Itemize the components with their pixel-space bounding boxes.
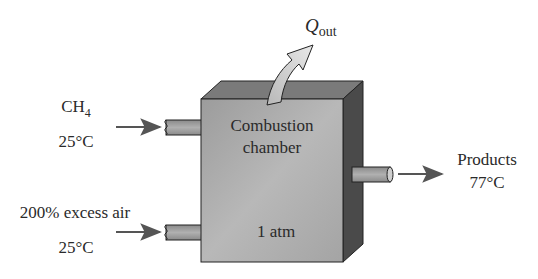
chamber-label-line1: Combustion — [230, 116, 314, 135]
diagram-canvas: Qout Combustion chamber 1 atm CH4 25°C 2… — [0, 0, 538, 279]
chamber-label-line2: chamber — [243, 138, 302, 157]
heat-out-label: Qout — [305, 15, 337, 39]
inlet-ch4-temperature: 25°C — [58, 132, 93, 151]
inlet-air-temperature: 25°C — [58, 238, 93, 257]
outlet-pipe — [352, 167, 393, 182]
outlet-temperature: 77°C — [469, 173, 504, 192]
inlet-air-species: 200% excess air — [20, 203, 131, 222]
inlet-ch4-species: CH4 — [61, 97, 91, 120]
outlet-products-label: Products — [457, 150, 517, 169]
chamber-pressure-label: 1 atm — [257, 222, 295, 241]
inlet-pipe-ch4 — [165, 120, 203, 135]
inlet-pipe-air — [165, 225, 203, 240]
